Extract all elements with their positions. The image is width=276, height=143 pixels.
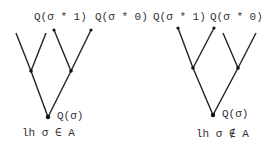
caption: lh σ ∉ A <box>196 128 249 140</box>
caption: lh σ ∈ A <box>22 127 75 139</box>
leaf-label-1: Q(σ * 1) <box>153 11 206 23</box>
leaf-label-0: Q(σ * 0) <box>210 11 263 23</box>
leaf-node <box>89 28 92 31</box>
root-node <box>46 115 50 119</box>
leaf-node <box>52 28 55 31</box>
inner-node <box>236 66 240 70</box>
inner-node <box>29 69 33 73</box>
leaf-label-0: Q(σ * 0) <box>95 11 148 23</box>
inner-node <box>69 69 73 73</box>
right-tree: Q(σ * 1) Q(σ * 0) Q(σ) lh σ ∉ A <box>153 11 263 140</box>
leaf-node <box>176 26 179 29</box>
root-label: Q(σ) <box>57 110 83 122</box>
left-tree: Q(σ * 1) Q(σ * 0) Q(σ) lh σ ∈ A <box>16 11 148 139</box>
root-label: Q(σ) <box>222 108 248 120</box>
tree-diagram: Q(σ * 1) Q(σ * 0) Q(σ) lh σ ∈ A Q(σ * 1)… <box>0 0 276 143</box>
root-node <box>211 113 215 117</box>
inner-node <box>191 66 195 70</box>
leaf-node <box>212 26 215 29</box>
leaf-label-1: Q(σ * 1) <box>34 11 87 23</box>
